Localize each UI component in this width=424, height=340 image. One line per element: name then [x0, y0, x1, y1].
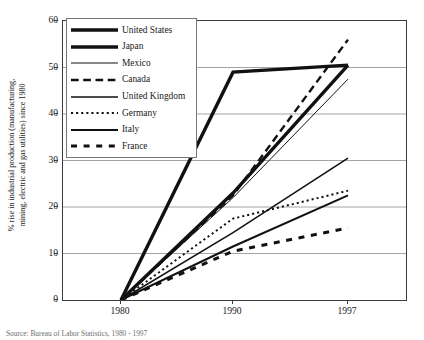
- legend-label: United States: [122, 26, 172, 35]
- legend-swatch-icon: [70, 140, 119, 152]
- x-tick-mark: [232, 300, 233, 304]
- legend-label: France: [122, 142, 148, 151]
- legend-label: Mexico: [122, 59, 151, 68]
- legend-label: Italy: [122, 125, 139, 134]
- legend-item-germany[interactable]: Germany: [67, 105, 196, 122]
- legend-label: Germany: [122, 109, 157, 118]
- x-tick-label: 1990: [222, 306, 241, 316]
- series-line-france: [121, 228, 348, 300]
- chart-legend: United StatesJapanMexicoCanadaUnited Kin…: [66, 18, 197, 158]
- y-tick-mark: [54, 67, 58, 68]
- chart-caption: Source: Bureau of Labor Statistics, 1980…: [6, 330, 422, 339]
- series-line-italy: [121, 195, 348, 300]
- legend-swatch-icon: [70, 124, 119, 136]
- legend-swatch-icon: [70, 74, 119, 86]
- x-tick-label: 1980: [110, 306, 129, 316]
- legend-swatch-icon: [70, 107, 119, 119]
- legend-label: Japan: [122, 42, 143, 51]
- legend-swatch-icon: [70, 57, 119, 69]
- y-tick-mark: [54, 20, 58, 21]
- y-axis-title: % rise in industrial production (manufac…: [0, 0, 34, 310]
- y-tick-mark: [54, 299, 58, 300]
- y-tick-mark: [54, 113, 58, 114]
- legend-swatch-icon: [70, 41, 119, 53]
- legend-swatch-icon: [70, 91, 119, 103]
- y-axis-title-line-1: % rise in industrial production (manufac…: [7, 5, 18, 305]
- legend-item-united-kingdom[interactable]: United Kingdom: [67, 88, 196, 105]
- y-tick-mark: [54, 206, 58, 207]
- legend-item-canada[interactable]: Canada: [67, 72, 196, 89]
- legend-item-france[interactable]: France: [67, 138, 196, 155]
- y-axis-title-line-2: mining, electric and gas utilities) sinc…: [17, 5, 28, 305]
- legend-item-japan[interactable]: Japan: [67, 39, 196, 56]
- y-tick-mark: [54, 253, 58, 254]
- x-tick-label: 1997: [337, 306, 356, 316]
- legend-label: United Kingdom: [122, 92, 185, 101]
- chart-container: % rise in industrial production (manufac…: [0, 0, 424, 340]
- y-axis-tick-labels: 6050403020100: [34, 0, 58, 340]
- legend-item-united-states[interactable]: United States: [67, 22, 196, 39]
- legend-swatch-icon: [70, 24, 119, 36]
- legend-label: Canada: [122, 75, 150, 84]
- legend-item-mexico[interactable]: Mexico: [67, 55, 196, 72]
- x-tick-mark: [347, 300, 348, 304]
- y-tick-mark: [54, 160, 58, 161]
- legend-item-italy[interactable]: Italy: [67, 122, 196, 139]
- x-tick-mark: [120, 300, 121, 304]
